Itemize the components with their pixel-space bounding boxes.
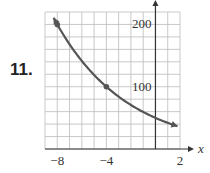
svg-text:200: 200 xyxy=(132,16,152,31)
tick-labels: −8−42100200x xyxy=(50,16,204,168)
exponential-graph: −8−42100200x xyxy=(0,0,210,173)
svg-text:−8: −8 xyxy=(50,153,64,168)
axes xyxy=(45,0,194,152)
svg-text:−4: −4 xyxy=(99,153,113,168)
svg-text:x: x xyxy=(197,141,204,156)
curve xyxy=(54,18,178,128)
svg-text:2: 2 xyxy=(177,153,184,168)
svg-text:100: 100 xyxy=(132,79,152,94)
grid xyxy=(45,12,180,149)
